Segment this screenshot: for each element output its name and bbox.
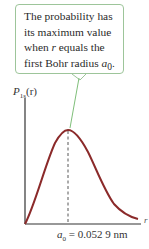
bohr-radius-label: a0 = 0.052 9 nm — [57, 228, 128, 243]
probability-plot — [0, 0, 149, 249]
y-axis-label: P1s(r) — [13, 85, 37, 100]
probability-curve — [25, 130, 138, 224]
x-axis-label: r — [144, 215, 148, 225]
